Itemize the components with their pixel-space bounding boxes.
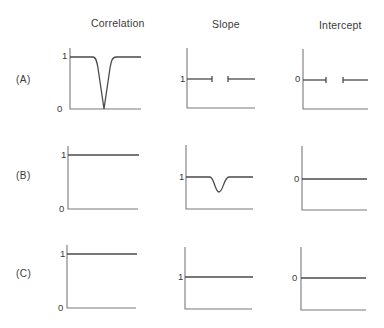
- axes: [185, 247, 252, 309]
- plot-a-intercept: [303, 49, 368, 109]
- plot-b-slope: [186, 145, 253, 209]
- plot-b-correlation: [68, 146, 139, 209]
- plot-c-correlation: [67, 245, 137, 308]
- plot-a-slope: [187, 48, 255, 108]
- plot-c-intercept: [301, 247, 366, 310]
- axes: [187, 48, 255, 108]
- plot-c-slope: [185, 247, 253, 309]
- axes: [303, 49, 368, 109]
- slope-curve: [186, 177, 253, 192]
- plot-b-intercept: [302, 146, 367, 210]
- axes: [302, 146, 367, 210]
- correlation-curve: [70, 57, 141, 109]
- plot-grid: [0, 0, 384, 328]
- plot-a-correlation: [70, 48, 141, 109]
